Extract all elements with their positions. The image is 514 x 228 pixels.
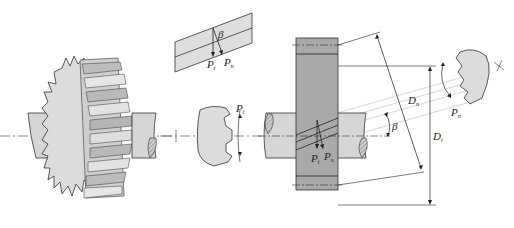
center-mark-right	[497, 60, 502, 71]
helical-gear-3d	[28, 56, 176, 198]
helical-gear-diagram: β Pt Pn Pt Pt	[0, 0, 514, 228]
helical-teeth	[80, 58, 132, 198]
helix-angle-label: β	[391, 120, 398, 132]
inset-pn-label: Pn	[223, 56, 234, 69]
diagram-canvas: β Pt Pn Pt Pt	[0, 0, 514, 228]
pitch-surface-inset: β Pt Pn	[175, 13, 252, 72]
inset-beta-label: β	[217, 28, 224, 40]
side-shaft-hatch-right	[359, 138, 367, 158]
inset-pt-label: Pt	[206, 58, 216, 71]
section-pt-label: Pt	[235, 102, 245, 115]
helical-gear-side: Pt Pn	[258, 38, 390, 190]
normal-section-pn-label: Pn	[450, 106, 461, 119]
gear-body	[296, 38, 338, 190]
dn-label: Dn	[407, 94, 419, 107]
transverse-section: Pt	[197, 102, 244, 166]
normal-section: Pn	[441, 50, 504, 119]
dt-label: Dt	[432, 130, 443, 143]
normal-diameter-dimension: Dn	[338, 32, 424, 185]
